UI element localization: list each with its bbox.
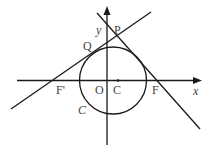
origin-label: O [95, 83, 104, 97]
diagram-canvas: y P Q F' O C F x C [0, 0, 206, 150]
center-c-label: C [113, 83, 121, 97]
center-point [117, 79, 120, 82]
point-q-label: Q [83, 39, 92, 53]
point-p-label: P [114, 23, 121, 37]
diagram-svg: y P Q F' O C F x C [0, 0, 206, 150]
line-fprime-q-p [11, 12, 151, 109]
line-p-f [97, 13, 200, 129]
point-f-label: F [152, 83, 159, 97]
circle-c-label: C [78, 103, 87, 117]
x-axis-label: x [192, 84, 199, 98]
y-axis-arrow-icon [104, 6, 111, 15]
point-fprime-label: F' [56, 83, 65, 97]
y-axis-label: y [95, 23, 102, 37]
x-axis-arrow-icon [193, 77, 202, 84]
